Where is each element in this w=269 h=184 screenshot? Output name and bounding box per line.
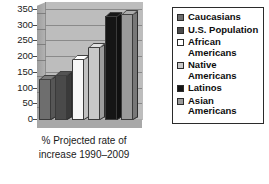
legend-color-swatch xyxy=(177,27,184,34)
y-axis-labels: 350 300 250 200 150 100 50 0 xyxy=(0,0,33,132)
legend-item: Latinos xyxy=(177,83,259,94)
y-axis-tick-label: 150 xyxy=(3,67,33,77)
legend-item-label: AfricanAmericans xyxy=(188,37,237,58)
legend-item-label: U.S. Population xyxy=(188,25,258,36)
y-axis-tick-label: 250 xyxy=(3,35,33,45)
legend-color-swatch xyxy=(177,14,184,21)
legend-item: AfricanAmericans xyxy=(177,37,259,58)
bar xyxy=(105,16,117,120)
bar-face xyxy=(105,16,117,120)
legend-item: U.S. Population xyxy=(177,25,259,36)
bar-face xyxy=(39,79,51,120)
legend-item-label: Caucasians xyxy=(188,12,241,23)
bar-face xyxy=(72,59,84,120)
legend-color-swatch xyxy=(177,39,184,46)
bar-face xyxy=(55,75,67,120)
x-axis-label: % Projected rate of increase 1990–2009 xyxy=(20,134,148,161)
legend-item-label: NativeAmericans xyxy=(188,60,237,81)
bar-chart: 350 300 250 200 150 100 50 0 % Projected… xyxy=(0,0,150,184)
bar xyxy=(88,47,100,120)
legend-color-swatch xyxy=(177,85,184,92)
legend-item: Caucasians xyxy=(177,12,259,23)
y-axis-tick-label: 300 xyxy=(3,20,33,30)
y-axis-tick-label: 350 xyxy=(3,4,33,14)
bar-series xyxy=(37,2,142,128)
x-axis-label-line2: increase 1990–2009 xyxy=(20,148,148,162)
legend-color-swatch xyxy=(177,62,184,69)
bar-side xyxy=(133,11,138,120)
bar-face xyxy=(121,14,133,120)
bar-face xyxy=(88,47,100,120)
chart-legend: CaucasiansU.S. PopulationAfricanAmerican… xyxy=(172,7,264,124)
legend-item-label: AsianAmericans xyxy=(188,96,237,117)
bar xyxy=(39,79,51,120)
legend-item: NativeAmericans xyxy=(177,60,259,81)
legend-item: AsianAmericans xyxy=(177,96,259,117)
x-axis-label-line1: % Projected rate of xyxy=(20,134,148,148)
y-axis-tick-label: 100 xyxy=(3,83,33,93)
y-axis-tick-label: 50 xyxy=(3,98,33,108)
legend-item-label: Latinos xyxy=(188,83,222,94)
chart-screenshot: 350 300 250 200 150 100 50 0 % Projected… xyxy=(0,0,269,184)
bar xyxy=(55,75,67,120)
y-axis-tick-label: 200 xyxy=(3,51,33,61)
legend-color-swatch xyxy=(177,98,184,105)
y-axis-tick-label: 0 xyxy=(3,114,33,124)
bar xyxy=(72,59,84,120)
bar xyxy=(121,14,133,120)
